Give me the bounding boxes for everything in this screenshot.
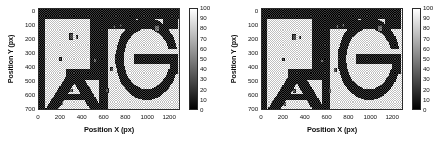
y-tick-label: 100 [0,22,35,28]
colorbar-tick-label: 90 [200,15,207,21]
colorbar-tick-label: 50 [423,56,430,62]
y-tick-label: 300 [223,50,258,56]
plot-box-left [38,8,180,110]
y-tick-label: 400 [0,64,35,70]
colorbar-tick-label: 0 [423,107,426,113]
plot-box-right [261,8,403,110]
colorbar-tick-label: 10 [200,97,207,103]
colorbar-tick-label: 100 [200,5,210,11]
x-axis-title-left: Position X (px) [84,126,134,133]
colorbar-tick-label: 20 [423,86,430,92]
y-tick-label: 100 [223,22,258,28]
colorbar-tick-label: 70 [423,35,430,41]
y-tick-label: 200 [223,36,258,42]
y-tick-label: 500 [223,78,258,84]
colorbar-tick-label: 90 [423,15,430,21]
heatmap-image-left [39,9,179,109]
colorbar-tick-label: 60 [200,46,207,52]
x-tick-label: 600 [99,114,109,120]
figure-container: 0100200300400500600700 02004006008001000… [0,0,447,144]
x-tick-label: 1000 [141,114,154,120]
colorbar-tick-label: 40 [200,66,207,72]
plot-area-left [38,8,180,110]
y-tick-label: 500 [0,78,35,84]
colorbar-tick-label: 30 [200,76,207,82]
y-tick-label: 300 [0,50,35,56]
y-tick-label: 700 [0,106,35,112]
colorbar-tick-label: 20 [200,86,207,92]
x-axis-title-right: Position X (px) [307,126,357,133]
x-tick-label: 0 [36,114,39,120]
colorbar-tick-label: 40 [423,66,430,72]
colorbar-left [189,8,198,110]
colorbar-right [412,8,421,110]
x-tick-label: 200 [55,114,65,120]
right-heatmap-panel: 0100200300400500600700 02004006008001000… [223,0,446,144]
left-heatmap-panel: 0100200300400500600700 02004006008001000… [0,0,223,144]
x-tick-label: 200 [278,114,288,120]
y-axis-title-left: Position Y (px) [7,35,14,84]
plot-area-right [261,8,403,110]
colorbar-tick-label: 10 [423,97,430,103]
x-tick-label: 1200 [385,114,398,120]
colorbar-tick-label: 80 [423,25,430,31]
colorbar-tick-label: 50 [200,56,207,62]
y-tick-label: 0 [223,8,258,14]
x-tick-label: 400 [300,114,310,120]
y-tick-label: 200 [0,36,35,42]
colorbar-gradient-right [412,8,421,110]
x-tick-label: 800 [120,114,130,120]
x-tick-label: 600 [322,114,332,120]
colorbar-gradient-left [189,8,198,110]
colorbar-tick-label: 60 [423,46,430,52]
x-tick-label: 1200 [162,114,175,120]
colorbar-ticks-left: 1009080706050403020100 [200,8,222,110]
x-tick-label: 0 [259,114,262,120]
y-tick-label: 600 [0,92,35,98]
colorbar-ticks-right: 1009080706050403020100 [423,8,445,110]
y-tick-label: 0 [0,8,35,14]
colorbar-tick-label: 30 [423,76,430,82]
y-tick-label: 600 [223,92,258,98]
colorbar-tick-label: 80 [200,25,207,31]
heatmap-image-right [262,9,402,109]
x-tick-label: 1000 [364,114,377,120]
x-tick-label: 800 [343,114,353,120]
colorbar-tick-label: 0 [200,107,203,113]
colorbar-tick-label: 100 [423,5,433,11]
colorbar-tick-label: 70 [200,35,207,41]
y-tick-label: 700 [223,106,258,112]
y-axis-title-right: Position Y (px) [230,35,237,84]
x-tick-label: 400 [77,114,87,120]
y-tick-label: 400 [223,64,258,70]
